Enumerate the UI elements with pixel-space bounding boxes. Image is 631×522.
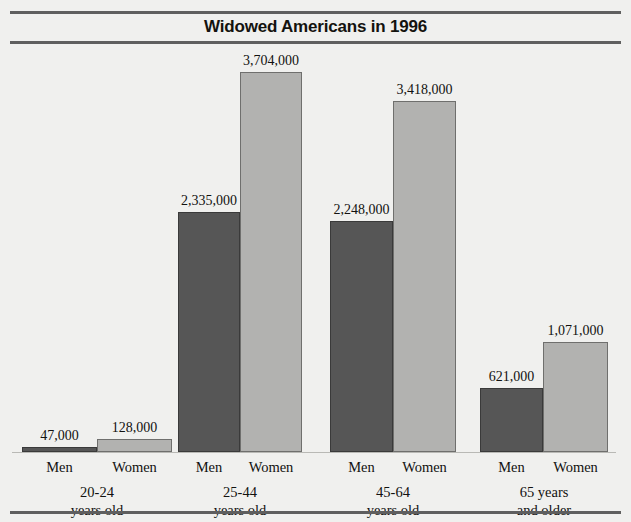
bar-group-20-24: 47,000 128,000 Men Women 20-24 years old bbox=[12, 44, 182, 511]
bars-45-64: 2,248,000 3,418,000 bbox=[320, 44, 465, 452]
bars-25-44: 2,335,000 3,704,000 bbox=[168, 44, 313, 452]
bar-men-25-44[interactable] bbox=[178, 212, 240, 452]
divider-top bbox=[10, 11, 621, 14]
bar-value-men-20-24: 47,000 bbox=[40, 428, 79, 443]
bar-value-men-65-plus: 621,000 bbox=[489, 369, 535, 384]
age-label-line2-65-plus: and older bbox=[475, 501, 613, 519]
sex-label-men-25-44: Men bbox=[178, 459, 240, 476]
bar-men-20-24[interactable] bbox=[22, 447, 97, 452]
bar-value-women-45-64: 3,418,000 bbox=[397, 82, 453, 97]
age-label-line1-45-64: 45-64 bbox=[325, 483, 461, 501]
sex-labels-45-64: Men Women bbox=[320, 459, 465, 481]
sex-labels-65-plus: Men Women bbox=[470, 459, 618, 481]
bar-slot-women-65-plus: 1,071,000 bbox=[543, 44, 608, 452]
bar-value-women-25-44: 3,704,000 bbox=[243, 53, 299, 68]
bar-men-45-64[interactable] bbox=[330, 221, 393, 452]
sex-label-men-20-24: Men bbox=[22, 459, 97, 476]
age-label-line2-25-44: years old bbox=[173, 501, 307, 519]
bar-slot-men-25-44: 2,335,000 bbox=[178, 44, 240, 452]
age-label-line1-65-plus: 65 years bbox=[475, 483, 613, 501]
bar-women-25-44[interactable] bbox=[240, 72, 302, 452]
age-label-line2-45-64: years old bbox=[325, 501, 461, 519]
bar-group-45-64: 2,248,000 3,418,000 Men Women 45-64 year… bbox=[320, 44, 465, 511]
sex-label-women-65-plus: Women bbox=[543, 459, 608, 476]
age-label-line1-20-24: 20-24 bbox=[12, 483, 182, 501]
sex-label-women-45-64: Women bbox=[393, 459, 456, 476]
bar-value-women-65-plus: 1,071,000 bbox=[548, 323, 604, 338]
bar-women-45-64[interactable] bbox=[393, 101, 456, 452]
bar-group-65-plus: 621,000 1,071,000 Men Women 65 years and… bbox=[470, 44, 618, 511]
sex-label-men-65-plus: Men bbox=[480, 459, 543, 476]
sex-label-women-20-24: Women bbox=[97, 459, 172, 476]
sex-labels-20-24: Men Women bbox=[12, 459, 182, 481]
bar-slot-women-20-24: 128,000 bbox=[97, 44, 172, 452]
chart-title: Widowed Americans in 1996 bbox=[0, 16, 631, 38]
bar-slot-men-65-plus: 621,000 bbox=[480, 44, 543, 452]
chart-container: Widowed Americans in 1996 47,000 128,000… bbox=[0, 0, 631, 522]
sex-label-men-45-64: Men bbox=[330, 459, 393, 476]
age-label-line2-20-24: years old bbox=[12, 501, 182, 519]
plot-area: 47,000 128,000 Men Women 20-24 years old bbox=[0, 44, 631, 511]
bars-20-24: 47,000 128,000 bbox=[12, 44, 182, 452]
bar-value-women-20-24: 128,000 bbox=[112, 420, 158, 435]
sex-label-women-25-44: Women bbox=[240, 459, 302, 476]
bar-value-men-45-64: 2,248,000 bbox=[334, 202, 390, 217]
bar-slot-women-45-64: 3,418,000 bbox=[393, 44, 456, 452]
bar-slot-women-25-44: 3,704,000 bbox=[240, 44, 302, 452]
divider-bottom bbox=[10, 511, 621, 514]
bars-65-plus: 621,000 1,071,000 bbox=[470, 44, 618, 452]
bar-women-65-plus[interactable] bbox=[543, 342, 608, 452]
bar-men-65-plus[interactable] bbox=[480, 388, 543, 452]
age-label-line1-25-44: 25-44 bbox=[173, 483, 307, 501]
bar-women-20-24[interactable] bbox=[97, 439, 172, 452]
bar-slot-men-45-64: 2,248,000 bbox=[330, 44, 393, 452]
bar-slot-men-20-24: 47,000 bbox=[22, 44, 97, 452]
sex-labels-25-44: Men Women bbox=[168, 459, 313, 481]
bar-group-25-44: 2,335,000 3,704,000 Men Women 25-44 year… bbox=[168, 44, 313, 511]
bar-value-men-25-44: 2,335,000 bbox=[181, 193, 237, 208]
